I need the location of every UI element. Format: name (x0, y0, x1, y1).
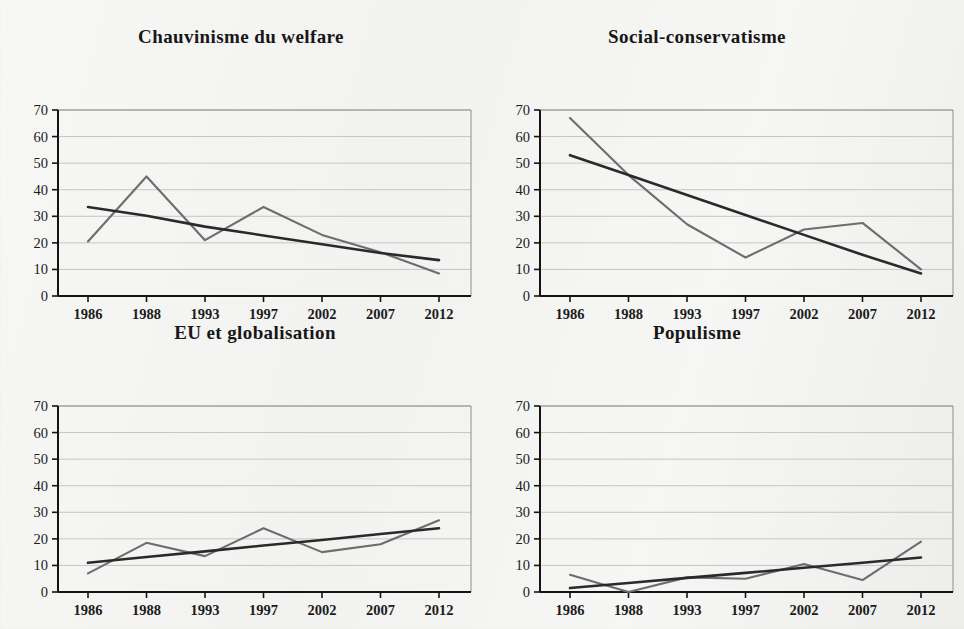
y-axis-tick-label: 30 (34, 504, 49, 520)
y-axis-tick-label: 50 (516, 451, 531, 467)
trend-series-line (88, 207, 439, 260)
y-axis-tick-label: 40 (34, 478, 49, 494)
x-axis-tick-label: 1988 (132, 602, 161, 618)
x-axis-tick-label: 1986 (74, 602, 103, 618)
y-axis-tick-label: 50 (34, 451, 49, 467)
plot-area: 7060504030201001986198819931997200220072… (482, 352, 964, 607)
x-axis-tick-label: 2007 (848, 306, 877, 322)
panel-populisme: Populisme 706050403020100198619881993199… (482, 322, 964, 607)
y-axis-tick-label: 30 (516, 208, 531, 224)
plot-area: 7060504030201001986198819931997200220072… (0, 56, 482, 311)
plot-area: 7060504030201001986198819931997200220072… (0, 352, 482, 607)
x-axis-tick-label: 2012 (907, 602, 936, 618)
x-axis-tick-label: 2007 (366, 602, 395, 618)
chart-svg-2: 7060504030201001986198819931997200220072… (0, 352, 482, 607)
y-axis-tick-label: 70 (516, 398, 531, 414)
chart-content: 7060504030201001986198819931997200220072… (34, 398, 472, 618)
panel-social-conservatisme: Social-conservatisme 7060504030201001986… (482, 26, 964, 311)
y-axis-tick-label: 20 (34, 235, 49, 251)
y-axis-tick-label: 70 (34, 102, 49, 118)
chart-content: 7060504030201001986198819931997200220072… (516, 102, 954, 322)
x-axis-tick-label: 2012 (425, 306, 454, 322)
chart-svg-3: 7060504030201001986198819931997200220072… (482, 352, 964, 607)
figure-four-panel-line-charts: Chauvinisme du welfare 70605040302010019… (0, 0, 964, 629)
y-axis-tick-label: 20 (516, 531, 531, 547)
panel-title: Chauvinisme du welfare (0, 26, 482, 48)
x-axis-tick-label: 2007 (848, 602, 877, 618)
y-axis-tick-label: 0 (523, 288, 530, 304)
x-axis-tick-label: 1993 (673, 602, 702, 618)
data-series-line (570, 118, 921, 269)
x-axis-tick-label: 1993 (191, 306, 220, 322)
y-axis-tick-label: 10 (516, 557, 531, 573)
x-axis-tick-label: 1988 (614, 602, 643, 618)
x-axis-tick-label: 2002 (790, 602, 819, 618)
y-axis-tick-label: 20 (516, 235, 531, 251)
y-axis-tick-label: 50 (516, 155, 531, 171)
x-axis-tick-label: 2002 (308, 306, 337, 322)
y-axis-tick-label: 50 (34, 155, 49, 171)
chart-svg-0: 7060504030201001986198819931997200220072… (0, 56, 482, 311)
y-axis-tick-label: 60 (516, 129, 531, 145)
x-axis-tick-label: 1988 (614, 306, 643, 322)
y-axis-tick-label: 60 (34, 425, 49, 441)
x-axis-tick-label: 1986 (556, 602, 585, 618)
x-axis-tick-label: 1993 (673, 306, 702, 322)
y-axis-tick-label: 0 (41, 584, 48, 600)
chart-content: 7060504030201001986198819931997200220072… (34, 102, 472, 322)
y-axis-tick-label: 30 (516, 504, 531, 520)
y-axis-tick-label: 20 (34, 531, 49, 547)
x-axis-tick-label: 1997 (731, 306, 760, 322)
y-axis-tick-label: 10 (516, 261, 531, 277)
y-axis-tick-label: 0 (41, 288, 48, 304)
panel-chauvinisme-du-welfare: Chauvinisme du welfare 70605040302010019… (0, 26, 482, 311)
x-axis-tick-label: 1986 (74, 306, 103, 322)
x-axis-tick-label: 1986 (556, 306, 585, 322)
y-axis-tick-label: 30 (34, 208, 49, 224)
x-axis-tick-label: 2002 (308, 602, 337, 618)
panel-eu-et-globalisation: EU et globalisation 70605040302010019861… (0, 322, 482, 607)
y-axis-tick-label: 10 (34, 261, 49, 277)
x-axis-tick-label: 1997 (731, 602, 760, 618)
chart-content: 7060504030201001986198819931997200220072… (516, 398, 954, 618)
panel-title: Social-conservatisme (482, 26, 912, 48)
y-axis-tick-label: 70 (516, 102, 531, 118)
y-axis-tick-label: 70 (34, 398, 49, 414)
x-axis-tick-label: 1988 (132, 306, 161, 322)
plot-area: 7060504030201001986198819931997200220072… (482, 56, 964, 311)
x-axis-tick-label: 2002 (790, 306, 819, 322)
y-axis-tick-label: 0 (523, 584, 530, 600)
chart-svg-1: 7060504030201001986198819931997200220072… (482, 56, 964, 311)
x-axis-tick-label: 2007 (366, 306, 395, 322)
x-axis-tick-label: 1997 (249, 602, 278, 618)
x-axis-tick-label: 2012 (425, 602, 454, 618)
y-axis-tick-label: 40 (516, 478, 531, 494)
y-axis-tick-label: 40 (516, 182, 531, 198)
trend-series-line (570, 155, 921, 273)
y-axis-tick-label: 40 (34, 182, 49, 198)
y-axis-tick-label: 60 (34, 129, 49, 145)
x-axis-tick-label: 1993 (191, 602, 220, 618)
trend-series-line (570, 557, 921, 588)
x-axis-tick-label: 2012 (907, 306, 936, 322)
panel-title: EU et globalisation (0, 322, 510, 344)
panel-title: Populisme (482, 322, 912, 344)
y-axis-tick-label: 60 (516, 425, 531, 441)
data-series-line (88, 176, 439, 273)
x-axis-tick-label: 1997 (249, 306, 278, 322)
y-axis-tick-label: 10 (34, 557, 49, 573)
